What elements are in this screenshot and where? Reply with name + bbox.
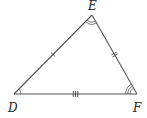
- vertex-label-f: F: [132, 101, 142, 115]
- triangle-sides: [14, 15, 137, 94]
- side-tick-marks: [51, 52, 118, 97]
- vertex-labels: DEF: [7, 0, 142, 115]
- side-ef: [92, 15, 137, 94]
- vertex-label-e: E: [87, 0, 97, 13]
- vertex-label-d: D: [7, 101, 18, 115]
- angle-arc-icon: [130, 88, 134, 94]
- triangle-diagram: DEF: [0, 0, 147, 118]
- angle-arc-icon: [19, 89, 21, 94]
- angle-arc-icon: [87, 20, 95, 22]
